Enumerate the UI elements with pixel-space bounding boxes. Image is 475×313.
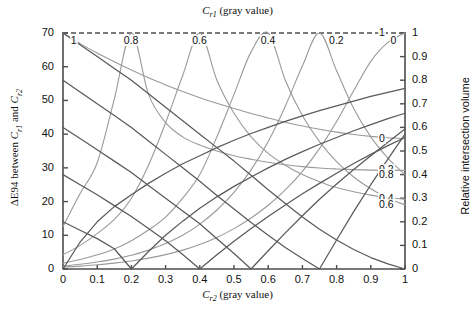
right-axis-tick-label: 0.2 <box>412 215 427 227</box>
delta-e-curve-label: 0.4 <box>260 35 277 46</box>
left-axis-tick-label: 50 <box>0 93 54 105</box>
right-axis-tick-label: 0.6 <box>412 120 427 132</box>
volume-curves-layer <box>63 32 405 267</box>
x-axis-tick-label: 0.2 <box>117 273 145 285</box>
right-axis-tick-label: 1 <box>412 26 418 38</box>
left-axis-tick-label: 60 <box>0 60 54 72</box>
x-axis-tick-label: 0.3 <box>152 273 180 285</box>
axes-layer <box>63 32 405 269</box>
left-axis-tick-label: 0 <box>0 262 54 274</box>
volume-curve <box>63 33 405 139</box>
x-axis-tick-label: 0.4 <box>186 273 214 285</box>
left-axis-tick-label: 20 <box>0 195 54 207</box>
volume-curve-label: 0.8 <box>378 169 395 180</box>
delta-e-curve-label: 0 <box>390 35 398 46</box>
delta-e-curve-label: 0.6 <box>191 35 208 46</box>
delta-e-curve <box>63 33 405 269</box>
x-axis-tick-label: 0.1 <box>83 273 111 285</box>
delta-e-curve-label: 0.2 <box>328 35 345 46</box>
x-axis-tick-label: 0 <box>49 273 77 285</box>
x-axis-tick-label: 0.8 <box>323 273 351 285</box>
delta-e-curve-label: 1 <box>70 35 78 46</box>
delta-e-curve-label: 0.8 <box>123 35 140 46</box>
x-axis-tick-label: 0.9 <box>357 273 385 285</box>
right-axis-tick-label: 0.8 <box>412 73 427 85</box>
left-axis-tick-label: 70 <box>0 26 54 38</box>
x-axis-tick-label: 0.7 <box>288 273 316 285</box>
right-axis-tick-label: 0.3 <box>412 191 427 203</box>
right-axis-tick-label: 0.7 <box>412 97 427 109</box>
x-axis-tick-label: 0.6 <box>254 273 282 285</box>
left-axis-tick-label: 10 <box>0 228 54 240</box>
delta-e-curves-layer <box>63 33 405 269</box>
right-axis-tick-label: 0.4 <box>412 168 427 180</box>
delta-e-curve <box>63 113 405 269</box>
plot-area <box>0 0 475 313</box>
left-axis-tick-label: 40 <box>0 127 54 139</box>
x-axis-tick-label: 1 <box>391 273 419 285</box>
volume-curve-label: 1 <box>378 27 386 38</box>
x-axis-tick-label: 0.5 <box>220 273 248 285</box>
right-axis-tick-label: 0.5 <box>412 144 427 156</box>
volume-curve <box>63 33 405 255</box>
volume-curve-label: 0.6 <box>378 199 395 210</box>
right-axis-tick-label: 0.1 <box>412 238 427 250</box>
right-axis-tick-label: 0.9 <box>412 50 427 62</box>
chart-figure: Cr1 (gray value) Cr2 (gray value) ΔE94 b… <box>0 0 475 313</box>
delta-e-curve <box>63 127 405 269</box>
left-axis-tick-label: 30 <box>0 161 54 173</box>
volume-curve-label: 0 <box>378 133 386 144</box>
